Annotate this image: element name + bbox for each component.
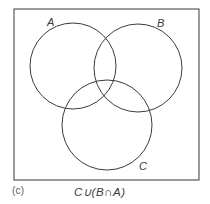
set-label-a: A: [46, 16, 54, 28]
set-label-b: B: [157, 17, 164, 29]
venn-diagram-canvas: A B C: [0, 0, 210, 204]
caption-index-label: (c): [12, 185, 24, 196]
venn-diagram-figure: A B C (c) C∪(B∩A): [0, 0, 210, 204]
universal-set-frame: [14, 9, 199, 180]
caption-set-expression: C∪(B∩A): [74, 185, 126, 199]
set-label-c: C: [139, 160, 147, 172]
figure-caption: (c) C∪(B∩A): [0, 185, 210, 204]
